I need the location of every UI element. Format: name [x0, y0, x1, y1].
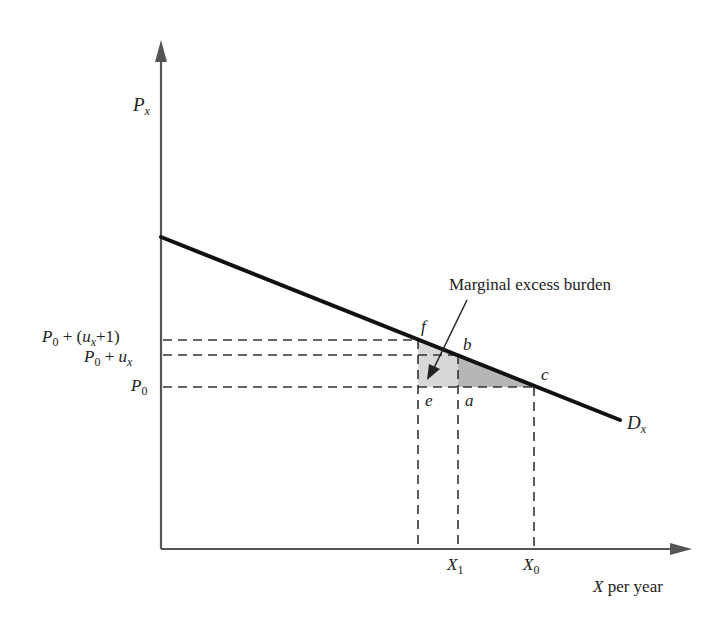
- demand-curve: [161, 237, 620, 420]
- point-a-label: a: [465, 392, 474, 409]
- y-axis-arrow-icon: [155, 40, 167, 62]
- x-axis-label: X per year: [593, 578, 663, 595]
- x-tick-x1: X1: [447, 556, 463, 576]
- diagram-canvas: [0, 0, 714, 621]
- y-tick-p0: P0: [131, 377, 147, 397]
- point-c-label: c: [541, 366, 549, 383]
- point-e-label: e: [425, 392, 433, 409]
- point-b-label: b: [463, 336, 472, 353]
- y-axis-label: Px: [133, 95, 150, 117]
- y-tick-p0-ux: P0 + ux: [84, 348, 132, 368]
- marginal-excess-burden-label: Marginal excess burden: [449, 276, 611, 293]
- y-tick-p0-ux-plus-1: P0 + (ux+1): [42, 328, 120, 348]
- x-tick-x0: X0: [523, 556, 539, 576]
- x-axis-arrow-icon: [670, 543, 692, 555]
- demand-label: Dx: [627, 413, 646, 435]
- point-f-label: f: [421, 318, 426, 335]
